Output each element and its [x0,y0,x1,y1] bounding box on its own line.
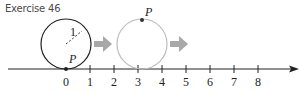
number-line: 0 1 2 3 4 5 6 7 8 [8,65,299,89]
rolling-circle-diagram: 0 1 2 3 4 5 6 7 8 1 P P [0,0,305,91]
circle-outline-rolled [117,19,167,69]
tick-label-4: 4 [159,75,165,89]
tick-label-5: 5 [183,75,189,89]
tick-label-7: 7 [231,75,237,89]
circle-rolled: P [117,5,167,69]
tick-label-0: 0 [63,75,69,89]
tick-label-2: 2 [111,75,117,89]
tick-label-3: 3 [135,75,141,89]
tick-label-1: 1 [87,75,93,89]
tick-labels: 0 1 2 3 4 5 6 7 8 [63,75,261,89]
right-arrow-icon-2 [170,36,188,52]
point-p-initial [64,67,68,71]
right-arrow-icon-1 [94,36,112,52]
tick-label-8: 8 [255,75,261,89]
point-p-label-rolled: P [144,5,153,19]
point-p-label-initial: P [68,52,77,66]
tick-label-6: 6 [207,75,213,89]
radius-label: 1 [70,25,76,39]
point-p-rolled [140,18,144,22]
circle-initial: 1 P [41,19,91,71]
